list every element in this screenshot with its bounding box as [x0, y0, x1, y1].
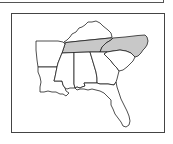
southeast-us-map [0, 0, 173, 144]
state-florida [75, 82, 130, 127]
